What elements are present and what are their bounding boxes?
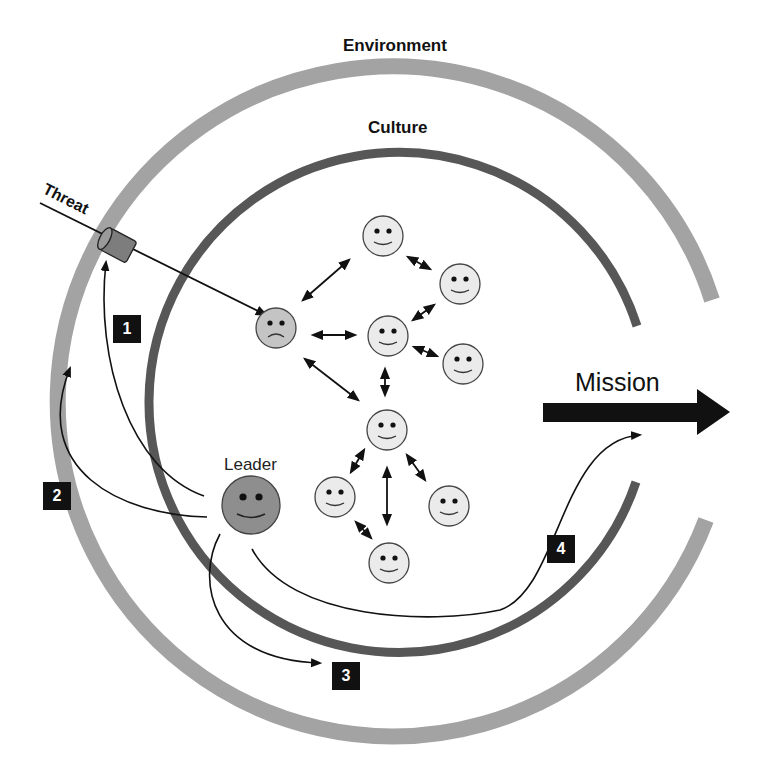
step2-arrow bbox=[60, 368, 207, 517]
face-member-center bbox=[368, 316, 408, 356]
face-member-top bbox=[363, 216, 403, 256]
face-member-lower-left bbox=[315, 477, 355, 517]
environment-ring bbox=[58, 66, 712, 736]
face-member-threatened-sad bbox=[256, 308, 296, 348]
mission-label: Mission bbox=[575, 368, 660, 397]
step-badge-3: 3 bbox=[332, 662, 360, 690]
environment-label: Environment bbox=[343, 36, 447, 56]
step-badge-4: 4 bbox=[547, 535, 575, 563]
step-badge-1: 1 bbox=[113, 315, 141, 343]
step3-arrow bbox=[210, 534, 320, 663]
face-member-hub bbox=[367, 410, 407, 450]
step-badge-2: 2 bbox=[43, 482, 71, 510]
face-member-upper-right bbox=[440, 264, 480, 304]
face-member-lower-right bbox=[429, 486, 469, 526]
culture-label: Culture bbox=[368, 118, 428, 138]
leader-label: Leader bbox=[224, 455, 277, 475]
face-member-right bbox=[443, 344, 483, 384]
face-member-bottom bbox=[369, 543, 409, 583]
face-leader bbox=[222, 476, 280, 534]
